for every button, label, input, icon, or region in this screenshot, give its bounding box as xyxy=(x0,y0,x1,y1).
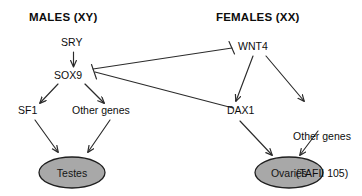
edge-other-genes-male-to-testes xyxy=(88,120,110,152)
node-label-other-genes-male: Other genes xyxy=(72,105,130,117)
males-section-heading: MALES (XY) xyxy=(29,11,97,24)
edge-dax1-to-ovaries xyxy=(240,121,272,155)
edge-dax1-inhibits-sox9 xyxy=(95,72,233,108)
oval-label-testes: Testes xyxy=(57,167,87,179)
oval-label-ovaries: Ovaries xyxy=(271,167,307,179)
node-label-wnt4: WNT4 xyxy=(238,41,268,53)
node-label-dax1: DAX1 xyxy=(227,105,254,117)
edge-wnt4-to-other-genes-female xyxy=(266,56,304,101)
node-label-sf1: SF1 xyxy=(18,105,37,117)
edge-sox9-to-other-genes-male xyxy=(85,84,104,103)
node-label-sox9: SOX9 xyxy=(54,70,82,82)
testes-oval-label-wrap: Testes xyxy=(39,157,105,188)
node-label-sry: SRY xyxy=(61,37,82,49)
pathway-diagram: MALES (XY) FEMALES (XX) SRY SOX9 SF1 Oth… xyxy=(0,0,362,196)
edge-sox9-to-sf1 xyxy=(40,84,58,103)
females-section-heading: FEMALES (XX) xyxy=(216,11,300,24)
edge-sox9-inhibits-wnt4 xyxy=(93,48,232,69)
ovaries-oval-label-wrap: Ovaries xyxy=(255,157,323,188)
edge-wnt4-to-dax1 xyxy=(236,56,253,101)
other-genes-female-line-1: Other genes xyxy=(286,130,358,142)
edge-sf1-to-testes xyxy=(35,120,58,152)
